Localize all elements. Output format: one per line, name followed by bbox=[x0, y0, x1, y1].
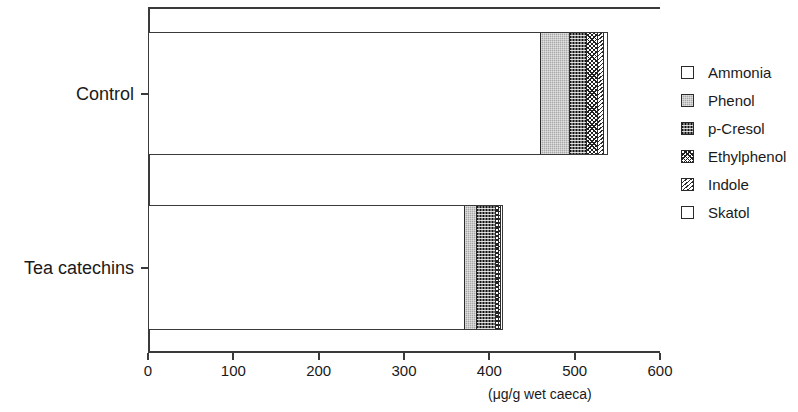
bar-segment-phenol bbox=[541, 33, 571, 154]
legend-swatch-ethylphenol bbox=[681, 150, 694, 163]
x-tick-label-200: 200 bbox=[306, 362, 331, 379]
legend-swatch-ammonia bbox=[681, 66, 694, 79]
bar-segment-p-cresol bbox=[477, 206, 496, 329]
y-category-label-control: Control bbox=[76, 83, 134, 104]
y-tick-tea-catechins bbox=[141, 267, 148, 269]
legend-item-phenol[interactable]: Phenol bbox=[681, 86, 786, 114]
x-tick-400 bbox=[488, 353, 490, 360]
legend-swatch-p-cresol bbox=[681, 122, 694, 135]
legend-label-ethylphenol: Ethylphenol bbox=[708, 148, 786, 165]
x-tick-label-0: 0 bbox=[144, 362, 152, 379]
x-tick-200 bbox=[318, 353, 320, 360]
bar-segment-skatol bbox=[501, 206, 502, 329]
bar-segment-ethylphenol bbox=[587, 33, 597, 154]
legend-label-p-cresol: p-Cresol bbox=[708, 120, 765, 137]
legend-item-indole[interactable]: Indole bbox=[681, 170, 786, 198]
x-tick-label-500: 500 bbox=[562, 362, 587, 379]
bar-control bbox=[148, 32, 608, 155]
legend-swatch-indole bbox=[681, 178, 694, 191]
x-tick-label-100: 100 bbox=[221, 362, 246, 379]
legend-label-skatol: Skatol bbox=[708, 204, 750, 221]
legend-item-ethylphenol[interactable]: Ethylphenol bbox=[681, 142, 786, 170]
legend-label-ammonia: Ammonia bbox=[708, 64, 771, 81]
legend-label-indole: Indole bbox=[708, 176, 749, 193]
bar-segment-p-cresol bbox=[570, 33, 587, 154]
y-tick-control bbox=[141, 93, 148, 95]
legend-swatch-skatol bbox=[681, 206, 694, 219]
x-tick-0 bbox=[147, 353, 149, 360]
bar-segment-skatol bbox=[604, 33, 607, 154]
x-tick-600 bbox=[659, 353, 661, 360]
x-tick-500 bbox=[574, 353, 576, 360]
bar-segment-ammonia bbox=[149, 206, 465, 329]
legend-item-skatol[interactable]: Skatol bbox=[681, 198, 786, 226]
legend: AmmoniaPhenolp-CresolEthylphenolIndoleSk… bbox=[681, 58, 786, 226]
bar-segment-phenol bbox=[465, 206, 478, 329]
x-tick-label-300: 300 bbox=[391, 362, 416, 379]
bar-tea-catechins bbox=[148, 205, 503, 330]
y-category-label-tea-catechins: Tea catechins bbox=[24, 257, 134, 278]
x-tick-label-400: 400 bbox=[477, 362, 502, 379]
x-axis-unit-label: (μg/g wet caeca) bbox=[488, 386, 592, 402]
legend-label-phenol: Phenol bbox=[708, 92, 755, 109]
x-tick-label-600: 600 bbox=[647, 362, 672, 379]
stacked-bar-chart: 0100200300400500600 (μg/g wet caeca) Con… bbox=[0, 0, 798, 412]
legend-item-p-cresol[interactable]: p-Cresol bbox=[681, 114, 786, 142]
legend-swatch-phenol bbox=[681, 94, 694, 107]
bar-segment-ammonia bbox=[149, 33, 541, 154]
x-tick-300 bbox=[403, 353, 405, 360]
legend-item-ammonia[interactable]: Ammonia bbox=[681, 58, 786, 86]
x-tick-100 bbox=[232, 353, 234, 360]
